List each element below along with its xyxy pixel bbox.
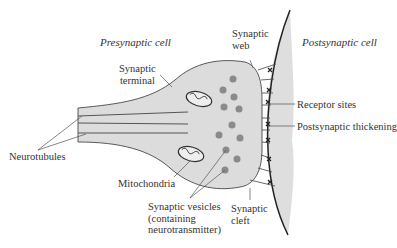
mitochondria-label: Mitochondria bbox=[118, 178, 175, 190]
presynaptic-cell-label: Presynaptic cell bbox=[100, 37, 171, 49]
synaptic-web-label: Synaptic web bbox=[232, 28, 269, 51]
synaptic-terminal-label: Synaptic terminal bbox=[119, 63, 156, 86]
leader-terminal bbox=[160, 75, 172, 87]
postsynaptic-cell bbox=[267, 10, 294, 235]
neurotubules-label: Neurotubules bbox=[9, 151, 66, 163]
leader-neurotubule-1 bbox=[38, 116, 82, 150]
postsynaptic-thickening-label: Postsynaptic thickening bbox=[297, 121, 397, 133]
synaptic-vesicles-label: Synaptic vesicles (containing neurotrans… bbox=[148, 201, 221, 236]
postsynaptic-cell-label: Postsynaptic cell bbox=[302, 37, 377, 49]
synaptic-cleft-label: Synaptic cleft bbox=[231, 203, 268, 226]
receptor-sites-label: Receptor sites bbox=[297, 99, 356, 111]
